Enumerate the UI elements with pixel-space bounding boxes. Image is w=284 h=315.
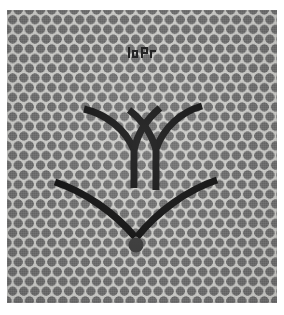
right-branch-arm [156, 106, 202, 190]
left-branch-arm [84, 109, 134, 188]
fabric-swatch [7, 10, 277, 303]
vertex-dot [129, 238, 144, 253]
brand-logo-icon [127, 46, 157, 60]
lower-chevron-left [55, 182, 135, 237]
lower-chevron-right [137, 180, 217, 237]
image-canvas [0, 0, 284, 315]
